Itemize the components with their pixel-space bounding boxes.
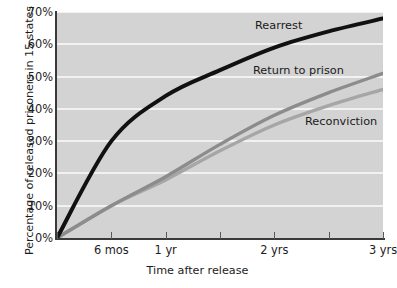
x-tick-mark	[166, 232, 167, 239]
x-tick-mark	[383, 232, 384, 239]
y-tick-label: 20%	[7, 166, 53, 180]
series-line	[57, 73, 383, 238]
y-tick-label: 70%	[7, 5, 53, 19]
x-tick-mark	[220, 232, 221, 239]
y-tick-label: 40%	[7, 102, 53, 116]
y-axis-line	[55, 11, 57, 240]
x-tick-mark	[274, 232, 275, 239]
x-tick-label: 6 mos	[94, 243, 129, 257]
x-tick-mark	[111, 232, 112, 239]
y-axis-tick-labels: 0%10%20%30%40%50%60%70%	[6, 0, 53, 288]
x-tick-label: 3 yrs	[369, 243, 397, 257]
series-label-return-to-prison: Return to prison	[253, 64, 344, 77]
x-tick-mark	[57, 232, 58, 239]
y-tick-label: 30%	[7, 134, 53, 148]
series-line	[57, 89, 383, 238]
y-tick-label: 60%	[7, 37, 53, 51]
series-line	[57, 18, 383, 238]
x-tick-mark	[329, 232, 330, 239]
series-label-reconviction: Reconviction	[305, 115, 377, 128]
series-label-rearrest: Rearrest	[255, 19, 302, 32]
y-tick-label: 50%	[7, 70, 53, 84]
x-tick-label: 1 yr	[155, 243, 177, 257]
y-tick-label: 10%	[7, 199, 53, 213]
x-tick-label: 2 yrs	[260, 243, 288, 257]
y-tick-label: 0%	[7, 231, 53, 245]
x-axis-title: Time after release	[0, 264, 395, 277]
